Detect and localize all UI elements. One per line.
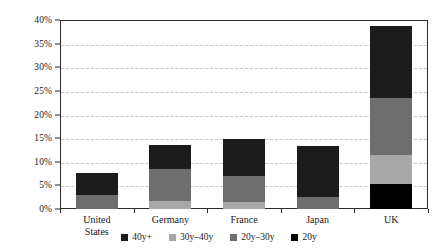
bar-segment[interactable] <box>149 169 191 201</box>
bars-layer <box>60 20 428 209</box>
stacked-bar[interactable] <box>223 139 265 209</box>
x-axis-tick-mark <box>281 209 282 213</box>
y-axis-tick-label: 40% <box>34 15 52 25</box>
x-axis-label-line: UK <box>384 214 398 226</box>
legend-swatch-icon <box>169 234 176 241</box>
y-axis-tick-label: 35% <box>34 39 52 49</box>
bar-segment[interactable] <box>149 145 191 169</box>
legend-label: 20y <box>302 232 316 242</box>
bar-group[interactable] <box>297 20 339 209</box>
y-axis-tick-label: 20% <box>34 110 52 120</box>
y-axis-tick-label: 30% <box>34 62 52 72</box>
bar-segment[interactable] <box>370 184 412 209</box>
bar-segment[interactable] <box>223 176 265 202</box>
x-axis-tick-mark <box>428 209 429 213</box>
bar-segment[interactable] <box>370 98 412 155</box>
legend-item[interactable]: 20y–30y <box>230 232 274 242</box>
x-axis-tick-mark <box>354 209 355 213</box>
x-axis-label-line: France <box>230 214 257 226</box>
x-axis-tick-mark <box>60 209 61 213</box>
x-axis-label-line: United <box>83 214 110 226</box>
y-axis-tick-label: 25% <box>34 86 52 96</box>
bar-group[interactable] <box>223 20 265 209</box>
legend-swatch-icon <box>291 234 298 241</box>
x-axis-category-label: France <box>230 214 257 226</box>
legend-label: 20y–30y <box>241 232 274 242</box>
bar-group[interactable] <box>370 20 412 209</box>
x-axis-category-label: Japan <box>306 214 329 226</box>
legend-label: 40y+ <box>132 232 152 242</box>
bar-group[interactable] <box>76 20 118 209</box>
bar-segment[interactable] <box>76 195 118 209</box>
x-axis-tick-mark <box>134 209 135 213</box>
y-axis-tick-label: 0% <box>39 204 52 214</box>
bar-segment[interactable] <box>223 202 265 209</box>
bar-segment[interactable] <box>297 197 339 209</box>
y-axis-tick-label: 10% <box>34 157 52 167</box>
chart-legend: 40y+30y–40y20y–30y20y <box>0 232 438 242</box>
bar-segment[interactable] <box>76 173 118 196</box>
y-axis-tick-label: 5% <box>39 180 52 190</box>
legend-item[interactable]: 20y <box>291 232 316 242</box>
legend-swatch-icon <box>121 234 128 241</box>
x-axis-category-label: Germany <box>152 214 189 226</box>
x-axis-category-label: UK <box>384 214 398 226</box>
stacked-bar[interactable] <box>76 173 118 209</box>
bar-segment[interactable] <box>370 26 412 98</box>
x-axis-tick-mark <box>207 209 208 213</box>
chart-container: 0%5%10%15%20%25%30%35%40% UnitedStatesGe… <box>0 0 438 252</box>
stacked-bar[interactable] <box>370 26 412 209</box>
legend-label: 30y–40y <box>180 232 213 242</box>
y-axis-tick-label: 15% <box>34 133 52 143</box>
x-axis-label-line: Japan <box>306 214 329 226</box>
bar-segment[interactable] <box>297 146 339 197</box>
legend-item[interactable]: 30y–40y <box>169 232 213 242</box>
stacked-bar[interactable] <box>149 145 191 209</box>
bar-group[interactable] <box>149 20 191 209</box>
legend-swatch-icon <box>230 234 237 241</box>
stacked-bar[interactable] <box>297 146 339 209</box>
bar-segment[interactable] <box>223 139 265 176</box>
bar-segment[interactable] <box>370 155 412 185</box>
y-axis: 0%5%10%15%20%25%30%35%40% <box>0 20 60 209</box>
bar-segment[interactable] <box>149 201 191 209</box>
legend-item[interactable]: 40y+ <box>121 232 152 242</box>
x-axis-label-line: Germany <box>152 214 189 226</box>
